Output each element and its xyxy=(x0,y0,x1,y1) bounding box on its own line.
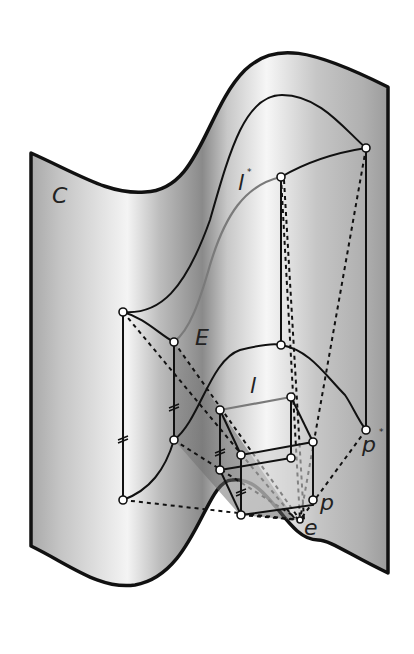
label-l-star: l xyxy=(238,170,244,195)
label-p: p xyxy=(319,490,334,515)
label-l: l xyxy=(250,373,256,398)
label-l-star-mark: * xyxy=(247,167,252,177)
label-e-plane: E xyxy=(195,325,209,350)
label-p-star-mark: * xyxy=(379,427,384,437)
cylinder-perspective-diagram: C l * E l p * p e xyxy=(0,0,414,654)
label-e-point: e xyxy=(304,515,318,540)
surface-c xyxy=(31,53,388,586)
label-c: C xyxy=(52,183,68,208)
label-p-star: p xyxy=(361,432,376,457)
